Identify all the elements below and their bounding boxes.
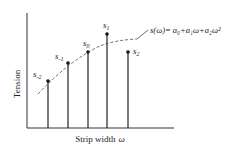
- label-s-1: s-1: [55, 51, 64, 62]
- label-s1: s1: [103, 20, 110, 31]
- label-s2: s2: [133, 46, 140, 57]
- formula-label: s(ω)= a₀+a₁ω+a₂ω²: [150, 25, 221, 35]
- point-s1: [105, 32, 109, 36]
- x-axis-label: Strip widthω: [75, 134, 125, 144]
- point-s-1: [66, 61, 70, 65]
- point-s2: [126, 50, 130, 54]
- y-axis-label: Tension: [12, 69, 22, 98]
- label-s0: s0: [83, 38, 90, 49]
- label-s-2: s-2: [33, 69, 42, 80]
- tension-diagram: s-2 s-1 s0 s1 s2 s(ω)= a₀+a₁ω+a₂ω² Tensi…: [0, 0, 226, 151]
- formula-leader: [137, 30, 148, 39]
- sample-labels: s-2 s-1 s0 s1 s2: [33, 20, 140, 80]
